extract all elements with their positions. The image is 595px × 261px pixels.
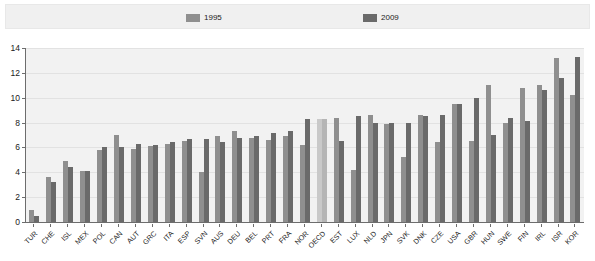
x-axis-tick	[405, 224, 406, 227]
y-axis-tick-label: 10	[11, 93, 20, 103]
x-axis-tick	[287, 224, 288, 227]
x-axis-cell: PRT	[262, 224, 279, 261]
bar-series-container	[26, 48, 584, 222]
bar-2009-SWE	[508, 118, 513, 222]
x-axis-tick	[439, 224, 440, 227]
x-axis-tick-label-GRC: GRC	[140, 229, 158, 247]
bar-group	[212, 48, 229, 222]
bar-group	[533, 48, 550, 222]
x-axis-tick-label-TUR: TUR	[23, 229, 40, 246]
bar-group	[263, 48, 280, 222]
bar-2009-HUN	[491, 135, 496, 222]
bar-2009-USA	[457, 104, 462, 222]
x-axis-tick	[152, 224, 153, 227]
x-axis-tick	[219, 224, 220, 227]
bar-2009-SVN	[204, 139, 209, 222]
bar-group	[432, 48, 449, 222]
x-axis-tick	[33, 224, 34, 227]
x-axis-tick	[524, 224, 525, 227]
bar-2009-KOR	[575, 57, 580, 222]
x-axis-tick-label-FRA: FRA	[277, 229, 294, 246]
x-axis-cell: LUX	[346, 224, 363, 261]
x-axis-cell: GBR	[465, 224, 482, 261]
bar-group	[26, 48, 43, 222]
x-axis-cell: GRC	[143, 224, 160, 261]
x-axis-cell: AUS	[211, 224, 228, 261]
bar-2009-AUS	[220, 142, 225, 222]
x-axis-tick	[473, 224, 474, 227]
x-axis-tick	[186, 224, 187, 227]
x-axis-tick	[541, 224, 542, 227]
bar-group	[43, 48, 60, 222]
bar-2009-GBR	[474, 98, 479, 222]
legend-swatch-2009	[363, 14, 377, 22]
bar-group	[77, 48, 94, 222]
x-axis-cell: ESP	[177, 224, 194, 261]
bar-2009-OECD	[322, 119, 327, 222]
legend-item-2009: 2009	[363, 11, 399, 24]
x-axis-tick-label-HUN: HUN	[479, 229, 496, 246]
x-axis-cell: IRL	[532, 224, 549, 261]
x-axis-tick-label-ISR: ISR	[549, 229, 564, 244]
x-axis-tick	[253, 224, 254, 227]
x-axis-tick	[135, 224, 136, 227]
plot-inner: 02468101214	[26, 48, 584, 222]
x-axis-tick-label-AUT: AUT	[125, 229, 142, 246]
x-axis-cell: NLD	[363, 224, 380, 261]
bar-2009-LUX	[356, 116, 361, 222]
bar-group	[195, 48, 212, 222]
y-axis-tick-label: 6	[15, 142, 20, 152]
chart-legend: 1995 2009	[5, 4, 590, 29]
x-axis-cell: MEX	[76, 224, 93, 261]
bar-group	[550, 48, 567, 222]
x-axis-cell: HUN	[481, 224, 498, 261]
x-axis-tick	[101, 224, 102, 227]
x-axis-tick-label-ESP: ESP	[175, 229, 192, 246]
x-axis-tick-label-ISL: ISL	[60, 229, 74, 243]
bar-group	[144, 48, 161, 222]
x-axis-tick-label-IRL: IRL	[533, 229, 547, 243]
y-axis-tick	[22, 222, 26, 223]
x-axis-tick-label-CZE: CZE	[429, 229, 446, 246]
bar-2009-IRL	[542, 90, 547, 222]
y-axis-tick-label: 8	[15, 118, 20, 128]
bar-2009-CZE	[440, 115, 445, 222]
x-axis-cell: USA	[448, 224, 465, 261]
x-axis-cell: EST	[329, 224, 346, 261]
bar-2009-FRA	[288, 131, 293, 222]
x-axis-tick-label-MEX: MEX	[73, 229, 90, 246]
x-axis-cell: CAN	[110, 224, 127, 261]
bar-2009-FIN	[525, 121, 530, 222]
bar-group	[280, 48, 297, 222]
x-axis-cell: DNK	[414, 224, 431, 261]
bar-group	[60, 48, 77, 222]
x-axis-tick	[558, 224, 559, 227]
x-axis-tick-label-ITA: ITA	[161, 229, 175, 243]
x-axis-labels: TURCHEISLMEXPOLCANAUTGRCITAESPSVNAUSDEUB…	[25, 224, 583, 261]
x-axis-tick-label-SVK: SVK	[395, 229, 412, 246]
x-axis-tick-label-EST: EST	[328, 229, 344, 245]
legend-swatch-1995	[186, 14, 200, 22]
x-axis-cell: KOR	[566, 224, 583, 261]
x-axis-cell: SVK	[397, 224, 414, 261]
bar-group	[381, 48, 398, 222]
bar-group	[297, 48, 314, 222]
bar-2009-ISL	[68, 167, 73, 222]
bar-group	[94, 48, 111, 222]
bar-2009-ESP	[187, 139, 192, 222]
x-axis-tick	[169, 224, 170, 227]
x-axis-tick-label-SVN: SVN	[192, 229, 209, 246]
bar-2009-JPN	[389, 123, 394, 222]
bar-2009-ITA	[170, 142, 175, 222]
bar-group	[127, 48, 144, 222]
bar-group	[313, 48, 330, 222]
bar-group	[499, 48, 516, 222]
x-axis-cell: TUR	[25, 224, 42, 261]
bar-2009-ISR	[559, 78, 564, 222]
y-axis-tick-label: 2	[15, 192, 20, 202]
x-axis-tick-label-SWE: SWE	[495, 229, 513, 247]
x-axis-tick-label-LUX: LUX	[345, 229, 361, 245]
x-axis-cell: FIN	[515, 224, 532, 261]
x-axis-tick	[118, 224, 119, 227]
x-axis-tick	[456, 224, 457, 227]
